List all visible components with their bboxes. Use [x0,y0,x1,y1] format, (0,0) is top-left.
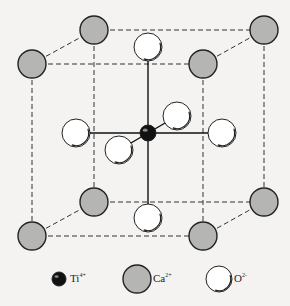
legend-label-ti: Ti4+ [70,272,86,284]
ca-ion-front-top-right [189,50,217,78]
ca-ion-back-bottom-right [250,188,278,216]
perovskite-structure-diagram: Ti4+ Ca2+ O2- [0,0,290,306]
legend-item-ti [52,272,66,286]
o-ion-left [62,119,90,147]
o-ion-icon [206,266,232,292]
ti-ion-center [140,125,156,141]
legend: Ti4+ Ca2+ O2- [52,265,247,293]
legend-item-o [206,266,232,292]
ca-ion-back-bottom-left [80,188,108,216]
ca-ion-front-bottom-right [189,222,217,250]
legend-label-ca: Ca2+ [153,272,172,284]
ca-ion-icon [123,265,151,293]
ti-ion-icon [52,272,66,286]
atoms [18,16,278,250]
o-ion-bottom [134,204,162,232]
legend-label-o: O2- [234,272,247,284]
ca-ion-back-top-left [80,16,108,44]
o-ion-back [163,102,191,130]
o-ion-top [134,33,162,61]
legend-item-ca [123,265,151,293]
ca-ion-front-top-left [18,50,46,78]
ca-ion-front-bottom-left [18,222,46,250]
ca-ion-back-top-right [250,16,278,44]
o-ion-front [105,136,133,164]
o-ion-right [208,119,236,147]
